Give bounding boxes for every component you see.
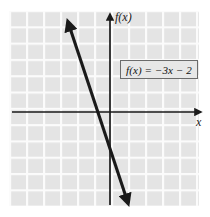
equation-text: f(x) = −3x − 2 — [126, 64, 192, 76]
grid-panel — [9, 11, 199, 206]
x-axis-label: x — [196, 116, 201, 128]
graph-canvas — [0, 0, 210, 217]
graph-figure: f(x) x f(x) = −3x − 2 — [0, 0, 210, 217]
equation-label-box: f(x) = −3x − 2 — [120, 60, 198, 79]
y-axis-label: f(x) — [115, 11, 132, 23]
